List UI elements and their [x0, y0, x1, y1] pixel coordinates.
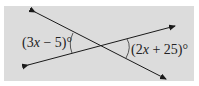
vertical-angles-diagram: (3x − 5)° (2x + 25)°	[0, 0, 199, 86]
left-angle-label: (3x − 5)°	[22, 35, 72, 51]
right-angle-arc	[126, 39, 129, 58]
right-angle-label: (2x + 25)°	[131, 42, 188, 58]
